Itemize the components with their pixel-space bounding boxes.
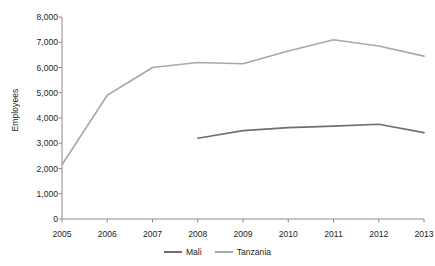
series-line-tanzania (62, 40, 424, 165)
legend-line-swatch-icon (215, 251, 233, 253)
legend-entry-tanzania[interactable]: Tanzania (215, 248, 271, 257)
series-line-mali (198, 124, 424, 138)
x-axis-tick-marks (62, 219, 424, 223)
series-lines (62, 40, 424, 165)
axis-lines (62, 17, 424, 219)
chart-legend: MaliTanzania (0, 248, 435, 257)
y-axis-tick-marks (59, 17, 63, 219)
legend-label: Mali (186, 248, 202, 257)
legend-entry-mali[interactable]: Mali (164, 248, 202, 257)
legend-line-swatch-icon (164, 251, 182, 253)
plot-area (0, 0, 435, 266)
legend-label: Tanzania (237, 248, 271, 257)
line-chart-figure: Employees 01,0002,0003,0004,0005,0006,00… (0, 0, 435, 266)
